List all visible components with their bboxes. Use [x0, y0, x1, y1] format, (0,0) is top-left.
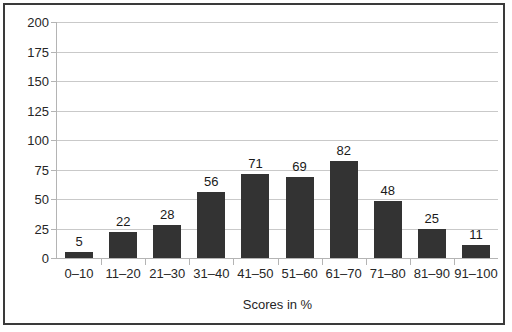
y-axis-label: 50	[9, 193, 49, 206]
x-axis-tick	[233, 259, 234, 265]
gridline	[57, 81, 498, 82]
x-axis-label: 91–100	[441, 267, 511, 280]
y-axis-tick	[51, 170, 56, 171]
y-axis-tick-labels: 0255075100125150175200	[5, 5, 49, 332]
y-axis-tick	[51, 258, 56, 259]
y-axis-label: 0	[9, 252, 49, 265]
y-axis-tick	[51, 199, 56, 200]
y-axis-tick	[51, 140, 56, 141]
x-axis-tick	[145, 259, 146, 265]
x-axis-tick	[101, 259, 102, 265]
gridline	[57, 22, 498, 23]
y-axis-tick	[51, 52, 56, 53]
bar-value-label: 56	[181, 175, 241, 188]
y-axis-label: 25	[9, 222, 49, 235]
bar-value-label: 69	[270, 160, 330, 173]
gridline	[57, 199, 498, 200]
chart-frame: 0255075100125150175200 Scores in % 50–10…	[3, 3, 505, 325]
bar-value-label: 48	[358, 184, 418, 197]
y-axis-label: 100	[9, 134, 49, 147]
x-axis-tick	[322, 259, 323, 265]
x-axis-tick	[454, 259, 455, 265]
x-axis-tick	[366, 259, 367, 265]
bar	[241, 174, 269, 258]
y-axis-label: 125	[9, 104, 49, 117]
bar	[197, 192, 225, 258]
bar-value-label: 25	[402, 212, 462, 225]
bar	[153, 225, 181, 258]
bar	[374, 201, 402, 258]
bar	[65, 252, 93, 258]
y-axis-label: 200	[9, 16, 49, 29]
gridline	[57, 111, 498, 112]
bar-value-label: 11	[446, 228, 506, 241]
bar	[109, 232, 137, 258]
x-axis-tick	[189, 259, 190, 265]
bar-value-label: 28	[137, 208, 197, 221]
y-axis-label: 175	[9, 45, 49, 58]
x-axis-tick	[278, 259, 279, 265]
y-axis-tick	[51, 81, 56, 82]
x-axis-tick	[410, 259, 411, 265]
y-axis-tick	[51, 229, 56, 230]
bar	[286, 177, 314, 258]
bar-value-label: 5	[49, 235, 109, 248]
bar-value-label: 82	[314, 144, 374, 157]
x-axis-title: Scores in %	[57, 297, 498, 312]
gridline	[57, 52, 498, 53]
y-axis-label: 150	[9, 75, 49, 88]
gridline	[57, 140, 498, 141]
bar	[330, 161, 358, 258]
y-axis-tick	[51, 111, 56, 112]
bar	[418, 229, 446, 259]
bar	[462, 245, 490, 258]
y-axis-label: 75	[9, 163, 49, 176]
y-axis-tick	[51, 22, 56, 23]
